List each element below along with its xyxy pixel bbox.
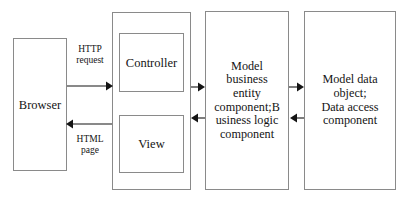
architecture-diagram: Browser Controller View Model business e… — [0, 0, 407, 200]
edge-label-html-page: HTML page — [68, 134, 112, 156]
edge-label-http-request: HTTP request — [68, 44, 112, 66]
arrow-data-to-model — [0, 0, 407, 200]
